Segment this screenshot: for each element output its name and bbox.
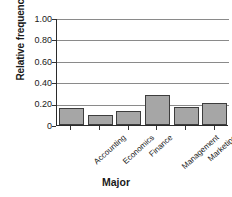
bar-accounting[interactable] — [59, 108, 84, 125]
x-tick-mark — [128, 126, 129, 130]
x-tick-mark — [99, 126, 100, 130]
x-tick-mark — [185, 126, 186, 130]
plot-area — [56, 19, 228, 126]
relative-frequency-bar-chart: Relative frequency 1.00 0.80 0.60 0.40 0… — [0, 0, 232, 197]
y-tick-label: 0.40 — [20, 79, 52, 88]
x-axis-title: Major — [0, 176, 232, 188]
y-tick-label: 0.60 — [20, 58, 52, 67]
y-tick-label: 0.20 — [20, 100, 52, 109]
y-tick-label: 0 — [20, 122, 52, 131]
bar-mis[interactable] — [202, 103, 227, 125]
y-axis-tick-labels: 1.00 0.80 0.60 0.40 0.20 0 — [16, 0, 52, 197]
bar-finance[interactable] — [116, 111, 141, 125]
y-tick-label: 1.00 — [20, 15, 52, 24]
bar-economics[interactable] — [88, 115, 113, 125]
y-tick-mark — [52, 126, 56, 127]
y-tick-label: 0.80 — [20, 36, 52, 45]
x-tick-mark — [214, 126, 215, 130]
x-tick-mark — [156, 126, 157, 130]
bar-series — [57, 18, 229, 125]
bar-marketing[interactable] — [174, 107, 199, 125]
bar-management[interactable] — [145, 95, 170, 125]
x-tick-mark — [70, 126, 71, 130]
